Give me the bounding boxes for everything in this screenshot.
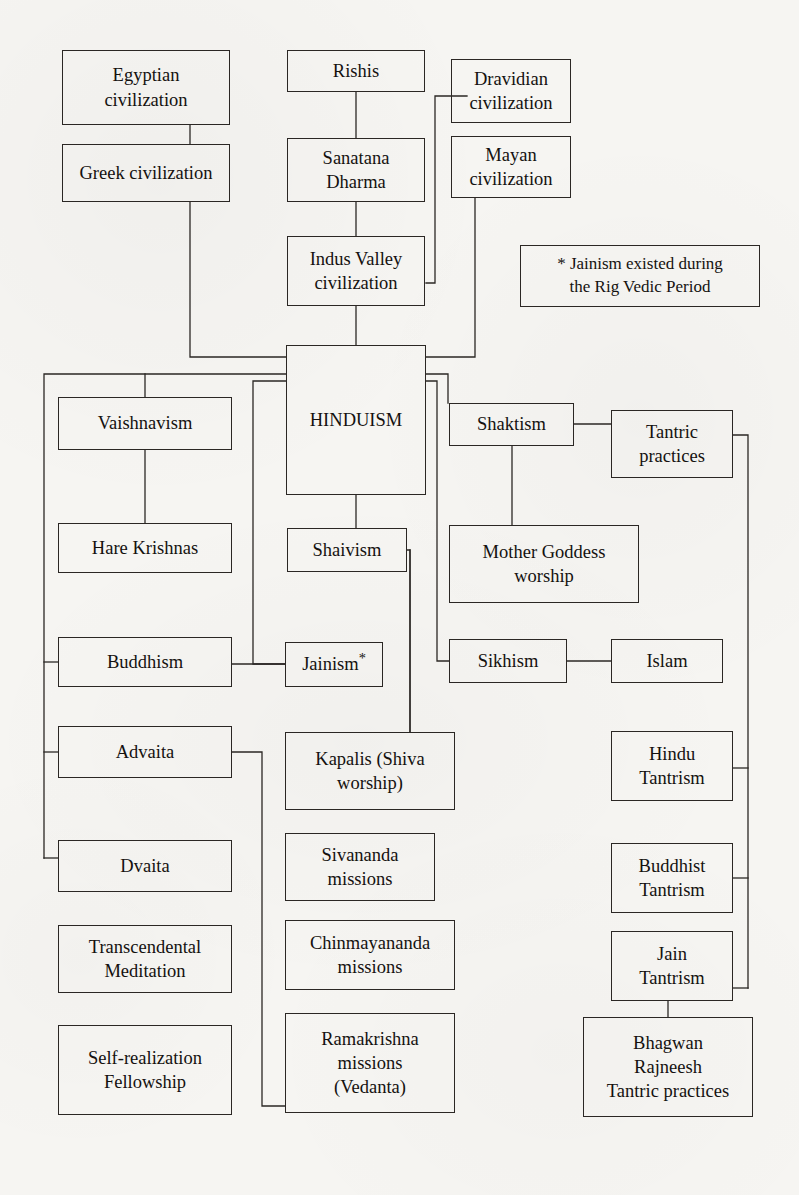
node-label: Sivananda missions [321, 843, 398, 891]
node-shaktism[interactable]: Shaktism [449, 403, 574, 446]
node-label: Buddhist Tantrism [639, 854, 706, 902]
node-egyptian-civilization[interactable]: Egyptian civilization [62, 50, 230, 125]
node-label: Hindu Tantrism [639, 742, 705, 790]
node-ramakrishna-missions[interactable]: Ramakrishna missions (Vedanta) [285, 1013, 455, 1113]
node-self-realization-fellowship[interactable]: Self-realization Fellowship [58, 1025, 232, 1115]
node-label: Shaivism [313, 538, 382, 562]
node-label: Islam [646, 649, 687, 673]
node-label: Rishis [333, 59, 379, 83]
node-shaivism[interactable]: Shaivism [287, 528, 407, 572]
node-indus-valley-civilization[interactable]: Indus Valley civilization [287, 236, 425, 306]
node-buddhist-tantrism[interactable]: Buddhist Tantrism [611, 843, 733, 913]
node-hindu-tantrism[interactable]: Hindu Tantrism [611, 731, 733, 801]
node-label: Dravidian civilization [469, 67, 552, 115]
node-label: Ramakrishna missions (Vedanta) [321, 1027, 419, 1099]
node-label: Dvaita [120, 854, 169, 878]
node-dvaita[interactable]: Dvaita [58, 840, 232, 892]
node-label: Greek civilization [79, 161, 212, 185]
node-hinduism[interactable]: HINDUISM [286, 345, 426, 495]
node-hare-krishnas[interactable]: Hare Krishnas [58, 523, 232, 573]
node-label: Bhagwan Rajneesh Tantric practices [607, 1031, 729, 1103]
node-label: Hare Krishnas [92, 536, 198, 560]
node-label: Sanatana Dharma [323, 146, 390, 194]
node-mayan-civilization[interactable]: Mayan civilization [451, 136, 571, 198]
node-sanatana-dharma[interactable]: Sanatana Dharma [287, 138, 425, 202]
node-buddhism[interactable]: Buddhism [58, 637, 232, 687]
node-vaishnavism[interactable]: Vaishnavism [58, 397, 232, 450]
node-label: Chinmayananda missions [310, 931, 430, 979]
node-label: Mother Goddess worship [483, 540, 606, 588]
node-label: Tantric practices [639, 420, 705, 468]
node-label: Jainism* [302, 652, 366, 676]
node-chinmayananda-missions[interactable]: Chinmayananda missions [285, 920, 455, 990]
edge-greek-hinduism [190, 202, 286, 357]
node-bhagwan-rajneesh-tantric-practices[interactable]: Bhagwan Rajneesh Tantric practices [583, 1017, 753, 1117]
node-transcendental-meditation[interactable]: Transcendental Meditation [58, 925, 232, 993]
node-islam[interactable]: Islam [611, 639, 723, 683]
flowchart-page: Egyptian civilization Greek civilization… [0, 0, 799, 1195]
node-label: Egyptian civilization [104, 63, 187, 111]
node-label: Kapalis (Shiva worship) [315, 747, 424, 795]
node-sivananda-missions[interactable]: Sivananda missions [285, 833, 435, 901]
node-label: Shaktism [477, 412, 546, 436]
node-label: Buddhism [107, 650, 183, 674]
footnote-jainism: * Jainism existed during the Rig Vedic P… [520, 245, 760, 307]
node-rishis[interactable]: Rishis [287, 50, 425, 92]
footnote-marker: * [359, 650, 366, 666]
node-jain-tantrism[interactable]: Jain Tantrism [611, 931, 733, 1001]
node-label: Mayan civilization [469, 143, 552, 191]
node-sikhism[interactable]: Sikhism [449, 639, 567, 683]
edge-mayan-hinduism [426, 198, 475, 357]
node-label: Jain Tantrism [639, 942, 705, 990]
edge-tantric-bus [733, 435, 748, 988]
node-label: Sikhism [478, 649, 539, 673]
node-tantric-practices[interactable]: Tantric practices [611, 410, 733, 478]
footnote-text: * Jainism existed during the Rig Vedic P… [557, 253, 723, 299]
node-label: HINDUISM [310, 408, 403, 432]
node-label: Indus Valley civilization [310, 247, 403, 295]
node-label: Self-realization Fellowship [88, 1046, 202, 1094]
node-advaita[interactable]: Advaita [58, 726, 232, 778]
node-label: Transcendental Meditation [89, 935, 201, 983]
node-greek-civilization[interactable]: Greek civilization [62, 144, 230, 202]
edge-hinduism-jainism-bus [253, 381, 286, 664]
node-label: Vaishnavism [98, 411, 193, 435]
node-dravidian-civilization[interactable]: Dravidian civilization [451, 59, 571, 123]
edge-advaita-ramakrishna [232, 752, 285, 1106]
node-kapalis-shiva-worship[interactable]: Kapalis (Shiva worship) [285, 732, 455, 810]
edge-hinduism-sikhism [426, 381, 449, 661]
node-jainism[interactable]: Jainism* [285, 642, 383, 687]
node-mother-goddess-worship[interactable]: Mother Goddess worship [449, 525, 639, 603]
node-label: Advaita [116, 740, 175, 764]
